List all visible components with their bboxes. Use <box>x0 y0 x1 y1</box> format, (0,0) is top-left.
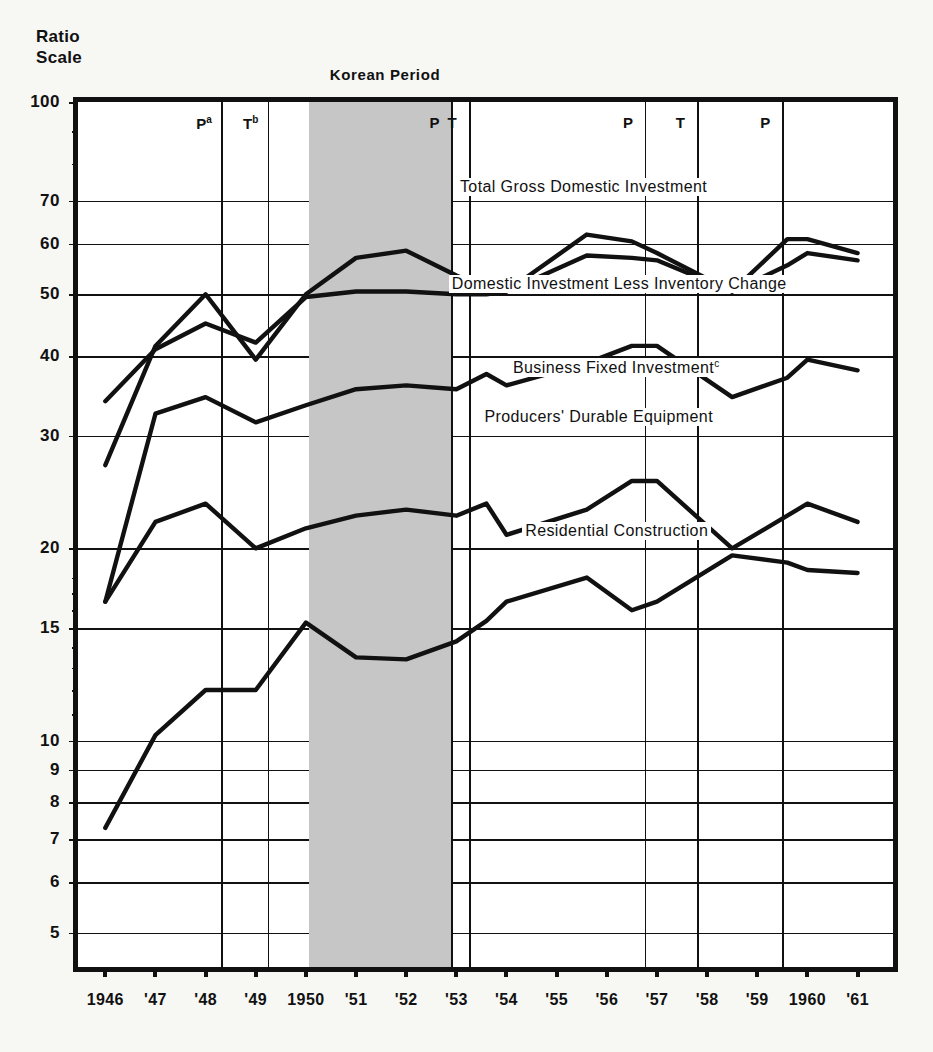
y-tick-30 <box>69 436 78 438</box>
y-axis-label-70: 70 <box>4 191 60 211</box>
y-tick-50 <box>69 294 78 296</box>
x-tick-54 <box>504 967 508 977</box>
x-tick-58 <box>705 967 709 977</box>
series-line-producers-durable-equipment <box>105 481 857 602</box>
x-tick-49 <box>254 967 258 977</box>
y-axis-label-40: 40 <box>4 346 60 366</box>
y-tick-20 <box>69 548 78 550</box>
y-tick-7 <box>69 839 78 841</box>
x-tick-1950 <box>304 967 308 977</box>
series-line-total-gross-domestic-investment <box>105 235 857 466</box>
y-tick-8 <box>69 802 78 804</box>
y-tick-40 <box>69 356 78 358</box>
x-tick-1960 <box>805 967 809 977</box>
x-tick-59 <box>755 967 759 977</box>
y-axis-label-7: 7 <box>4 829 60 849</box>
x-tick-57 <box>655 967 659 977</box>
x-tick-56 <box>605 967 609 977</box>
investment-ratio-chart: Ratio Scale Korean Period 10070605040302… <box>0 0 933 1052</box>
x-tick-51 <box>354 967 358 977</box>
series-label-total-gross-domestic-investment: Total Gross Domestic Investment <box>457 178 710 196</box>
series-label-residential-construction: Residential Construction <box>522 522 711 540</box>
series-line-residential-construction <box>105 555 857 827</box>
y-tick-60 <box>69 244 78 246</box>
x-tick-53 <box>454 967 458 977</box>
y-axis-label-15: 15 <box>4 618 60 638</box>
y-tick-5 <box>69 933 78 935</box>
y-axis-label-6: 6 <box>4 872 60 892</box>
plot-area: 100706050403020151098765PaTbPTPTP1946'47… <box>73 97 898 972</box>
series-label-producers-durable-equipment: Producers' Durable Equipment <box>481 408 716 426</box>
y-axis-label-100: 100 <box>4 92 60 112</box>
y-axis-label-20: 20 <box>4 538 60 558</box>
x-tick-52 <box>404 967 408 977</box>
y-tick-9 <box>69 770 78 772</box>
y-axis-label-60: 60 <box>4 234 60 254</box>
y-axis-label-10: 10 <box>4 731 60 751</box>
y-tick-10 <box>69 741 78 743</box>
y-tick-6 <box>69 882 78 884</box>
x-tick-1946 <box>103 967 107 977</box>
y-tick-100 <box>69 102 78 104</box>
ratio-scale-caption: Ratio Scale <box>36 26 82 69</box>
series-label-domestic-investment-less-inventory-change: Domestic Investment Less Inventory Chang… <box>449 275 790 293</box>
y-axis-label-30: 30 <box>4 426 60 446</box>
x-tick-48 <box>204 967 208 977</box>
y-tick-15 <box>69 628 78 630</box>
x-tick-61 <box>856 967 860 977</box>
series-line-business-fixed-investment <box>105 346 857 602</box>
x-tick-55 <box>555 967 559 977</box>
x-axis-label-61: '61 <box>828 991 888 1009</box>
series-label-business-fixed-investment: Business Fixed Investmentc <box>510 358 723 377</box>
plot-inner: 100706050403020151098765PaTbPTPTP1946'47… <box>78 102 893 967</box>
y-axis-label-9: 9 <box>4 760 60 780</box>
x-tick-47 <box>153 967 157 977</box>
y-tick-70 <box>69 201 78 203</box>
korean-period-title: Korean Period <box>305 66 465 83</box>
y-axis-label-8: 8 <box>4 792 60 812</box>
data-lines <box>78 102 893 967</box>
ratio-scale-line1: Ratio <box>36 26 82 47</box>
ratio-scale-line2: Scale <box>36 47 82 68</box>
y-axis-label-5: 5 <box>4 923 60 943</box>
y-axis-label-50: 50 <box>4 284 60 304</box>
